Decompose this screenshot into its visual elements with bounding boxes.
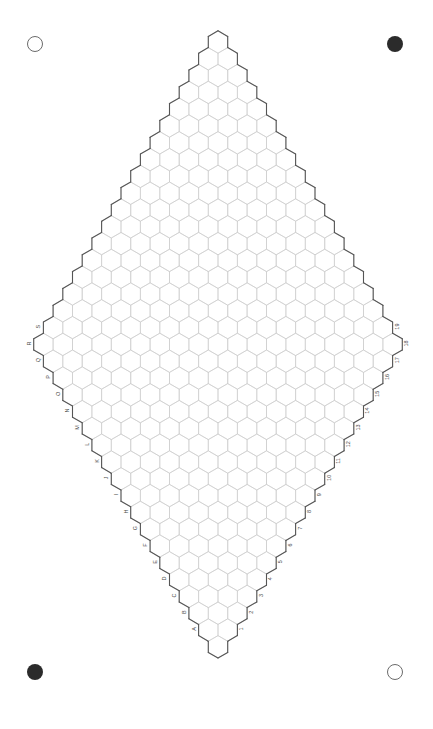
hex-cell[interactable] bbox=[286, 333, 305, 355]
hex-cell[interactable] bbox=[237, 283, 256, 305]
hex-cell[interactable] bbox=[237, 484, 256, 506]
hex-cell[interactable] bbox=[199, 350, 218, 372]
hex-cell[interactable] bbox=[228, 400, 247, 422]
hex-cell[interactable] bbox=[286, 468, 305, 490]
hex-cell[interactable] bbox=[305, 232, 324, 254]
hex-cell[interactable] bbox=[218, 182, 237, 204]
hex-cell[interactable] bbox=[160, 451, 179, 473]
hex-cell[interactable] bbox=[237, 350, 256, 372]
hex-cell[interactable] bbox=[296, 283, 315, 305]
hex-cell[interactable] bbox=[276, 316, 295, 338]
hex-cell[interactable] bbox=[237, 316, 256, 338]
hex-cell[interactable] bbox=[208, 266, 227, 288]
hex-cell[interactable] bbox=[102, 316, 121, 338]
hex-cell[interactable] bbox=[267, 333, 286, 355]
hex-cell[interactable] bbox=[199, 81, 218, 103]
hex-cell[interactable] bbox=[199, 148, 218, 170]
hex-cell[interactable] bbox=[102, 350, 121, 372]
hex-cell[interactable] bbox=[170, 266, 189, 288]
hex-cell[interactable] bbox=[208, 501, 227, 523]
hex-cell[interactable] bbox=[257, 451, 276, 473]
hex-cell[interactable] bbox=[286, 400, 305, 422]
hex-cell[interactable] bbox=[82, 350, 101, 372]
hex-cell[interactable] bbox=[257, 316, 276, 338]
hex-cell[interactable] bbox=[140, 417, 159, 439]
hex-cell[interactable] bbox=[228, 501, 247, 523]
hex-cell[interactable] bbox=[257, 384, 276, 406]
hex-cell[interactable] bbox=[150, 232, 169, 254]
hex-cell[interactable] bbox=[92, 300, 111, 322]
hex-cell[interactable] bbox=[237, 451, 256, 473]
hex-cell[interactable] bbox=[150, 333, 169, 355]
hex-cell[interactable] bbox=[267, 501, 286, 523]
hex-cell[interactable] bbox=[286, 434, 305, 456]
hex-cell[interactable] bbox=[218, 216, 237, 238]
hex-cell[interactable] bbox=[247, 199, 266, 221]
hex-cell[interactable] bbox=[140, 216, 159, 238]
hex-cell[interactable] bbox=[208, 535, 227, 557]
hex-cell[interactable] bbox=[92, 367, 111, 389]
hex-cell[interactable] bbox=[82, 384, 101, 406]
hex-cell[interactable] bbox=[131, 199, 150, 221]
hex-cell[interactable] bbox=[257, 249, 276, 271]
hex-cell[interactable] bbox=[140, 283, 159, 305]
hex-cell[interactable] bbox=[73, 333, 92, 355]
hex-cell[interactable] bbox=[189, 568, 208, 590]
hex-cell[interactable] bbox=[160, 417, 179, 439]
hex-cell[interactable] bbox=[150, 501, 169, 523]
hex-cell[interactable] bbox=[111, 300, 130, 322]
hex-cell[interactable] bbox=[131, 232, 150, 254]
hex-cell[interactable] bbox=[170, 468, 189, 490]
hex-cell[interactable] bbox=[218, 384, 237, 406]
hex-cell[interactable] bbox=[334, 350, 353, 372]
hex-cell[interactable] bbox=[73, 300, 92, 322]
hex-cell[interactable] bbox=[179, 249, 198, 271]
hex-cell[interactable] bbox=[131, 333, 150, 355]
hex-cell[interactable] bbox=[189, 98, 208, 120]
hex-cell[interactable] bbox=[276, 283, 295, 305]
hex-cell[interactable] bbox=[140, 350, 159, 372]
hex-cell[interactable] bbox=[208, 400, 227, 422]
hex-cell[interactable] bbox=[228, 535, 247, 557]
hex-cell[interactable] bbox=[179, 417, 198, 439]
hex-cell[interactable] bbox=[189, 367, 208, 389]
hex-cell[interactable] bbox=[208, 468, 227, 490]
hex-cell[interactable] bbox=[218, 484, 237, 506]
hex-cell[interactable] bbox=[228, 434, 247, 456]
hex-cell[interactable] bbox=[199, 585, 218, 607]
hex-cell[interactable] bbox=[199, 115, 218, 137]
hex-cell[interactable] bbox=[296, 350, 315, 372]
hex-cell[interactable] bbox=[189, 434, 208, 456]
hex-cell[interactable] bbox=[140, 451, 159, 473]
hex-cell[interactable] bbox=[218, 585, 237, 607]
hex-cell[interactable] bbox=[228, 232, 247, 254]
hex-cell[interactable] bbox=[276, 484, 295, 506]
hex-cell[interactable] bbox=[208, 300, 227, 322]
hex-cell[interactable] bbox=[247, 132, 266, 154]
hex-cell[interactable] bbox=[296, 249, 315, 271]
hex-cell[interactable] bbox=[140, 249, 159, 271]
hex-cell[interactable] bbox=[237, 148, 256, 170]
hex-cell[interactable] bbox=[334, 283, 353, 305]
hex-cell[interactable] bbox=[179, 350, 198, 372]
hex-cell[interactable] bbox=[267, 300, 286, 322]
hex-cell[interactable] bbox=[199, 182, 218, 204]
hex-cell[interactable] bbox=[102, 249, 121, 271]
hex-cell[interactable] bbox=[305, 367, 324, 389]
hex-cell[interactable] bbox=[131, 400, 150, 422]
hex-cell[interactable] bbox=[121, 384, 140, 406]
hex-cell[interactable] bbox=[228, 367, 247, 389]
hex-cell[interactable] bbox=[121, 451, 140, 473]
hex-cell[interactable] bbox=[189, 132, 208, 154]
hex-cell[interactable] bbox=[179, 283, 198, 305]
hex-cell[interactable] bbox=[102, 417, 121, 439]
hex-cell[interactable] bbox=[189, 333, 208, 355]
hex-cell[interactable] bbox=[189, 232, 208, 254]
hex-cell[interactable] bbox=[160, 182, 179, 204]
hex-cell[interactable] bbox=[82, 283, 101, 305]
hex-cell[interactable] bbox=[179, 552, 198, 574]
hex-cell[interactable] bbox=[228, 333, 247, 355]
hex-cell[interactable] bbox=[247, 333, 266, 355]
hex-cell[interactable] bbox=[208, 232, 227, 254]
hex-cell[interactable] bbox=[276, 417, 295, 439]
